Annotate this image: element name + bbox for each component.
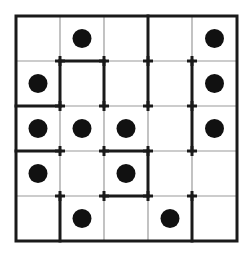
grid-cell[interactable] [148, 61, 192, 106]
dot-icon [161, 209, 180, 228]
grid-cell[interactable] [104, 196, 148, 241]
grid-cell[interactable] [104, 16, 148, 61]
dot-icon [205, 29, 224, 48]
grid-cell[interactable] [16, 16, 60, 61]
dot-icon [29, 74, 48, 93]
dot-icon [73, 119, 92, 138]
grid-cell[interactable] [192, 151, 237, 196]
dot-icon [73, 209, 92, 228]
dot-icon [205, 119, 224, 138]
grid-cell[interactable] [16, 196, 60, 241]
dot-icon [73, 29, 92, 48]
grid-cell[interactable] [148, 151, 192, 196]
dot-icon [117, 164, 136, 183]
dot-icon [205, 74, 224, 93]
dot-icon [29, 119, 48, 138]
grid-cell[interactable] [148, 16, 192, 61]
grid-cell[interactable] [192, 196, 237, 241]
grid-cell[interactable] [148, 106, 192, 151]
dot-icon [117, 119, 136, 138]
grid-cell[interactable] [60, 151, 104, 196]
puzzle-board [0, 0, 249, 257]
puzzle-grid [0, 0, 249, 257]
dot-icon [29, 164, 48, 183]
grid-cell[interactable] [60, 61, 104, 106]
grid-cell[interactable] [104, 61, 148, 106]
